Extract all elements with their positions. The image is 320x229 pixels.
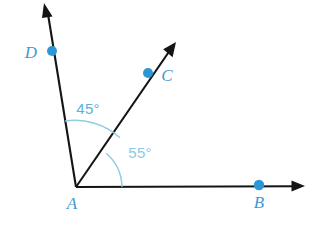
ray-AD-arrowhead (42, 3, 53, 18)
angle-diagram: D C A B 45° 55° (0, 0, 320, 229)
ray-AC-line (76, 50, 171, 188)
angle-CAB-label: 55° (128, 144, 151, 161)
point-D-dot (47, 46, 57, 56)
angle-CAB-arc (106, 153, 122, 187)
point-B-label: B (254, 193, 265, 212)
ray-AD (42, 3, 76, 187)
point-C-dot (143, 68, 153, 78)
ray-AB-arrowhead (292, 181, 306, 192)
ray-AD-line (48, 11, 77, 187)
point-C-label: C (161, 66, 173, 85)
ray-AB (76, 181, 305, 192)
ray-AC-arrowhead (163, 42, 176, 57)
diagram-canvas: D C A B 45° 55° (0, 0, 320, 229)
point-B-dot (254, 180, 264, 190)
point-A-label: A (66, 194, 78, 213)
angle-DAC-label: 45° (76, 100, 99, 117)
point-D-label: D (24, 43, 38, 62)
